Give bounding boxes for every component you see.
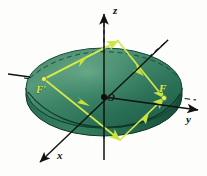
major-axis-left-tip <box>8 74 30 77</box>
y-axis-label: y <box>186 114 191 125</box>
ellipsoid-figure: z y x O F′ F <box>0 0 207 176</box>
x-axis-label: x <box>57 150 63 161</box>
focus-left-label: F′ <box>36 84 46 95</box>
focus-left-marker <box>41 76 46 81</box>
z-axis-label: z <box>113 5 117 16</box>
focus-right-marker <box>161 95 166 100</box>
focus-right-label: F <box>159 83 166 94</box>
origin-label: O <box>107 92 115 103</box>
ellipsoid-diagram-canvas <box>0 0 207 176</box>
